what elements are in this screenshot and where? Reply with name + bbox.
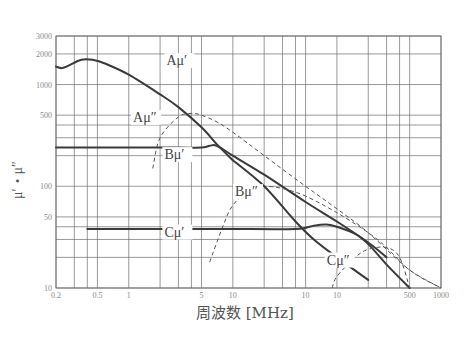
data-series bbox=[56, 59, 441, 288]
y-tick-label: 500 bbox=[40, 111, 52, 120]
y-tick-label: 1000 bbox=[36, 81, 52, 90]
x-axis-ticks: 0.20.5151010105001000 bbox=[51, 291, 449, 300]
curve-labels: Aμ′Aμ″Bμ′Bμ″Cμ′Cμ″ bbox=[131, 53, 355, 267]
curve-label: Aμ″ bbox=[133, 110, 157, 125]
y-tick-label: 2000 bbox=[36, 50, 52, 59]
curve-label: Bμ″ bbox=[235, 184, 258, 199]
x-axis-label: 周波数 [MHz] bbox=[196, 304, 294, 322]
y-axis-label: μ′・μ″ bbox=[10, 161, 25, 199]
x-tick-label: 0.2 bbox=[51, 291, 61, 300]
x-tick-label: 5 bbox=[200, 291, 204, 300]
y-axis-ticks: 3000200010005001005010 bbox=[36, 32, 52, 293]
curve-label: Bμ′ bbox=[164, 147, 184, 162]
x-tick-label: 1 bbox=[127, 291, 131, 300]
x-tick-label: 0.5 bbox=[92, 291, 102, 300]
series-a-imag bbox=[153, 113, 441, 288]
y-tick-label: 50 bbox=[44, 213, 52, 222]
grid-lines bbox=[56, 36, 441, 288]
curve-label: Cμ′ bbox=[164, 225, 184, 240]
permeability-frequency-chart: Aμ′Aμ″Bμ′Bμ″Cμ′Cμ″ 0.20.5151010105001000… bbox=[0, 0, 468, 342]
plot-frame bbox=[56, 36, 441, 288]
y-tick-label: 10 bbox=[44, 284, 52, 293]
series-c-real bbox=[87, 225, 409, 288]
x-tick-label: 1000 bbox=[433, 291, 449, 300]
y-tick-label: 100 bbox=[40, 182, 52, 191]
x-tick-label: 10 bbox=[229, 291, 237, 300]
x-tick-label: 10 bbox=[302, 291, 310, 300]
series-b-imag bbox=[210, 186, 441, 288]
x-tick-label: 500 bbox=[404, 291, 416, 300]
curve-label: Cμ″ bbox=[327, 253, 350, 268]
x-tick-label: 10 bbox=[333, 291, 341, 300]
curve-label: Aμ′ bbox=[166, 53, 187, 68]
y-tick-label: 3000 bbox=[36, 32, 52, 41]
